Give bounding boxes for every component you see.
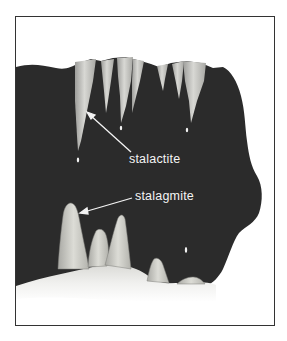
cave-illustration (16, 17, 275, 326)
stalactite-label: stalactite (129, 153, 180, 166)
diagram-frame: stalactite stalagmite (15, 16, 275, 326)
stalagmite-label: stalagmite (135, 190, 194, 203)
cave-interior (16, 57, 262, 293)
